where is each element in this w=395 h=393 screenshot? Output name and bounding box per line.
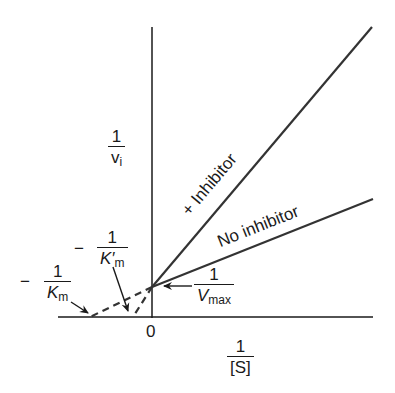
km-prime-denominator-sub: m <box>115 256 125 270</box>
inhibitor-extrapolation <box>133 287 152 317</box>
km-label: 1 Km <box>44 263 71 303</box>
y-axis-denominator-sub: i <box>120 155 123 169</box>
x-axis-numerator: 1 <box>233 338 248 356</box>
vmax-label: 1 Vmax <box>194 266 234 306</box>
km-prime-denominator: K′ <box>100 249 115 268</box>
km-prime-label: 1 K′m <box>97 229 128 269</box>
y-axis-numerator: 1 <box>109 128 124 146</box>
vmax-denominator: V <box>197 286 208 305</box>
km-numerator: 1 <box>50 263 65 281</box>
km-minus-sign: − <box>20 272 30 292</box>
y-axis-denominator: v <box>111 148 120 167</box>
inhibitor-line <box>152 27 372 287</box>
vmax-denominator-sub: max <box>208 293 231 307</box>
x-axis-denominator: [S] <box>227 356 254 376</box>
y-axis-label: 1 vi <box>108 128 125 168</box>
km-prime-minus-sign: − <box>74 239 84 259</box>
km-arrow-icon <box>71 302 88 313</box>
vmax-numerator: 1 <box>206 266 221 284</box>
origin-label: 0 <box>146 322 155 342</box>
km-denominator-sub: m <box>58 290 68 304</box>
km-prime-numerator: 1 <box>105 229 120 247</box>
x-axis-label: 1 [S] <box>227 338 254 376</box>
km-denominator: K <box>47 283 58 302</box>
